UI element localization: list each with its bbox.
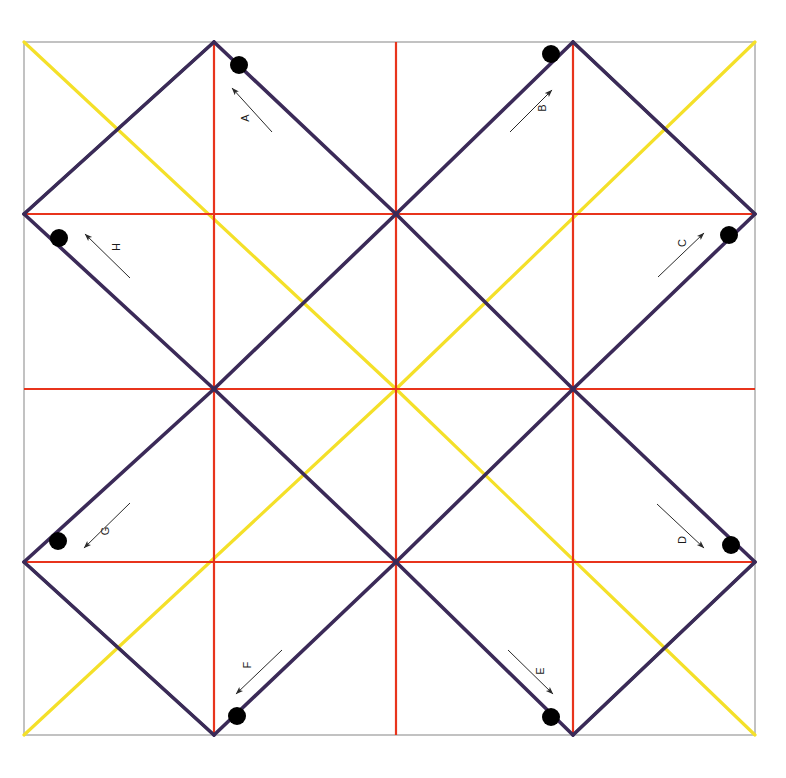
dot-b [542, 45, 560, 63]
dot-h [50, 229, 68, 247]
dot-f [228, 707, 246, 725]
dot-e [542, 708, 560, 726]
dot-c [720, 226, 738, 244]
vector-label-c: C [676, 239, 688, 247]
vector-label-d: D [676, 536, 688, 544]
vector-label-g: G [99, 527, 111, 536]
lattice-figure: ABCDEFGH [0, 0, 786, 778]
vector-label-a: A [239, 114, 251, 122]
dot-g [49, 532, 67, 550]
vector-label-e: E [534, 667, 546, 674]
dot-a [230, 56, 248, 74]
diagram-canvas: ABCDEFGH [0, 0, 786, 778]
vector-label-b: B [536, 104, 548, 111]
vector-label-f: F [241, 661, 253, 668]
dot-d [722, 536, 740, 554]
vector-label-h: H [110, 243, 122, 251]
